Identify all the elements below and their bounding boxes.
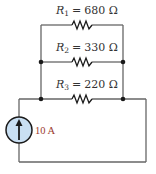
node-right-r2 xyxy=(121,60,126,65)
r3-label: R3=220 Ω xyxy=(55,78,118,92)
resistor-r2-icon xyxy=(72,58,92,66)
wires xyxy=(19,25,146,162)
circuit-diagram: R1=680 Ω R2=330 Ω R3=220 Ω 10 A xyxy=(0,0,156,174)
node-right-r3 xyxy=(121,97,126,102)
node-left-r3 xyxy=(39,97,44,102)
resistor-r3-icon xyxy=(72,95,92,103)
node-left-r2 xyxy=(39,60,44,65)
current-source-label: 10 A xyxy=(35,125,56,136)
r1-label: R1=680 Ω xyxy=(55,4,118,18)
r2-label: R2=330 Ω xyxy=(55,41,118,55)
current-source-icon xyxy=(6,117,32,143)
resistor-r1-icon xyxy=(72,21,92,29)
